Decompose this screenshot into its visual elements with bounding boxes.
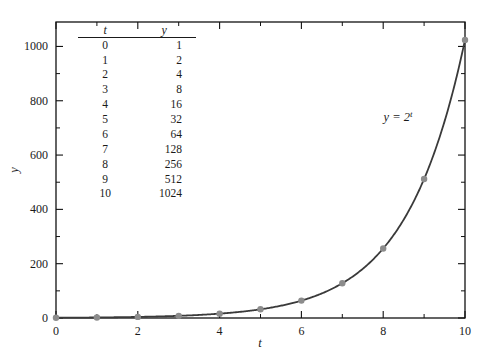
x-axis-tick-labels: 0246810 (53, 324, 471, 338)
exponential-growth-figure: 02004006008001000 0246810 y t y = 2t t y… (0, 0, 483, 351)
x-axis-title: t (258, 336, 262, 350)
table-row: 532 (78, 112, 196, 127)
x-tick-label: 0 (53, 324, 59, 338)
y-tick-label: 200 (30, 257, 48, 271)
table-cell-y: 512 (132, 172, 196, 187)
table-cell-y: 1 (132, 38, 196, 53)
table-row: 24 (78, 68, 196, 83)
table-cell-y: 32 (132, 112, 196, 127)
table-cell-t: 4 (78, 98, 132, 113)
x-tick-label: 8 (380, 324, 386, 338)
data-point-marker (421, 176, 427, 182)
y-tick-label: 1000 (24, 39, 48, 53)
table-row: 12 (78, 53, 196, 68)
data-point-marker (176, 313, 182, 319)
table-cell-y: 4 (132, 68, 196, 83)
y-axis-title: y (7, 167, 21, 175)
y-tick-label: 600 (30, 148, 48, 162)
x-tick-label: 2 (135, 324, 141, 338)
table-cell-y: 128 (132, 142, 196, 157)
table-row: 101024 (78, 187, 196, 202)
data-point-marker (257, 306, 263, 312)
data-point-marker (462, 37, 468, 43)
y-tick-label: 800 (30, 94, 48, 108)
table-cell-t: 5 (78, 112, 132, 127)
x-tick-label: 10 (459, 324, 471, 338)
x-tick-label: 4 (217, 324, 223, 338)
table-cell-t: 7 (78, 142, 132, 157)
value-table: t y 01122438416532664712882569512101024 (78, 24, 196, 202)
y-axis-tick-labels: 02004006008001000 (24, 39, 48, 325)
data-point-marker (216, 310, 222, 316)
table-cell-t: 6 (78, 127, 132, 142)
data-point-marker (339, 280, 345, 286)
table-header-t: t (78, 24, 132, 38)
table-cell-t: 0 (78, 38, 132, 53)
x-tick-label: 6 (298, 324, 304, 338)
value-table-body: 01122438416532664712882569512101024 (78, 38, 196, 202)
table-cell-t: 8 (78, 157, 132, 172)
table-header-row: t y (78, 24, 196, 38)
table-cell-y: 1024 (132, 187, 196, 202)
y-tick-label: 400 (30, 202, 48, 216)
y-tick-label: 0 (42, 311, 48, 325)
curve-equation-annotation: y = 2t (382, 109, 413, 124)
table-cell-y: 64 (132, 127, 196, 142)
table-row: 416 (78, 98, 196, 113)
table-header-y: y (132, 24, 196, 38)
table-row: 01 (78, 38, 196, 53)
value-table-head: t y (78, 24, 196, 38)
table-cell-t: 9 (78, 172, 132, 187)
data-point-marker (380, 245, 386, 251)
table-row: 9512 (78, 172, 196, 187)
table-row: 664 (78, 127, 196, 142)
table-cell-t: 10 (78, 187, 132, 202)
table-cell-t: 1 (78, 53, 132, 68)
data-point-marker (53, 315, 59, 321)
table-row: 38 (78, 83, 196, 98)
plot-canvas: 02004006008001000 0246810 y t y = 2t (0, 0, 483, 351)
data-point-marker (135, 314, 141, 320)
inset-data-table: t y 01122438416532664712882569512101024 (78, 24, 196, 202)
table-cell-t: 2 (78, 68, 132, 83)
table-row: 8256 (78, 157, 196, 172)
table-cell-y: 2 (132, 53, 196, 68)
data-point-marker (298, 297, 304, 303)
table-row: 7128 (78, 142, 196, 157)
table-cell-y: 8 (132, 83, 196, 98)
data-point-marker (94, 314, 100, 320)
table-cell-y: 256 (132, 157, 196, 172)
table-cell-t: 3 (78, 83, 132, 98)
table-cell-y: 16 (132, 98, 196, 113)
